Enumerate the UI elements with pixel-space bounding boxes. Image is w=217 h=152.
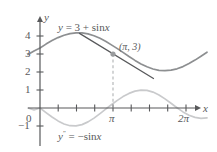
y-tick-label-neg1: −1 [18, 120, 30, 131]
x-tick-label-2pi: 2π [178, 113, 189, 124]
tangent-line [80, 33, 154, 78]
marked-point [110, 51, 115, 56]
curve-label-primary: y = 3 + sinx [58, 22, 110, 33]
curve-label-second-eq: = − [66, 130, 84, 142]
y-tick-label-4: 4 [25, 30, 31, 41]
curve-label-primary-eq: = 3 + [63, 21, 92, 33]
marked-point-label: (π, 3) [119, 42, 141, 52]
y-tick-label-1: 1 [25, 84, 31, 95]
curve-primary-function [28, 33, 207, 71]
y-tick-label-3: 3 [25, 48, 31, 59]
graph-figure: y x 4 3 2 1 0 −1 π 2π y = 3 + sinx y″ = … [0, 0, 217, 152]
x-axis-label: x [203, 103, 208, 114]
y-axis-label: y [44, 12, 49, 23]
x-tick-label-pi: π [109, 113, 115, 124]
y-tick-label-2: 2 [25, 66, 31, 77]
curve-label-second-fn: sin [84, 130, 97, 142]
curve-label-second-derivative: y″ = −sinx [58, 130, 101, 142]
curve-label-primary-fn: sin [92, 21, 105, 33]
curve-label-second-var: x [97, 130, 102, 142]
curve-label-primary-var: x [105, 21, 110, 33]
